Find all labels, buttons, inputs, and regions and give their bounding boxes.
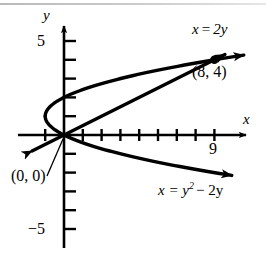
origin-leader-line: [47, 139, 63, 176]
line-eq-lhs: x: [192, 21, 199, 37]
line-equation-label: x=2y: [192, 22, 227, 37]
parabola-eq-exponent: 2: [189, 180, 194, 191]
parabola-eq-head: x = y: [158, 182, 189, 198]
math-figure: y x 5 −5 9 (0, 0) (8, 4) x=2y x = y2− 2y: [0, 0, 266, 253]
intersection-point-label: (8, 4): [192, 64, 227, 80]
y-axis-label: y: [43, 8, 50, 23]
x-axis-label: x: [243, 112, 250, 127]
x-tick-label-9: 9: [209, 141, 217, 157]
line-eq-operator: =: [202, 21, 210, 37]
y-tick-label-neg5: −5: [28, 221, 45, 237]
parabola-equation-label: x = y2− 2y: [158, 183, 223, 198]
y-tick-label-5: 5: [37, 33, 45, 49]
line-eq-rhs: 2y: [213, 21, 227, 37]
parabola-eq-tail: − 2y: [196, 182, 223, 198]
parabola-lower-branch: [45, 116, 232, 175]
origin-point-label: (0, 0): [11, 168, 46, 184]
